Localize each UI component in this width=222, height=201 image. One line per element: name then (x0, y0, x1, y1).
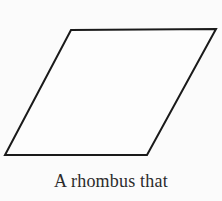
figure-card: A rhombus that (0, 0, 222, 201)
rhombus-figure (0, 0, 222, 166)
rhombus-shape (5, 29, 216, 155)
figure-caption: A rhombus that (0, 170, 222, 192)
rhombus-svg (0, 0, 222, 166)
